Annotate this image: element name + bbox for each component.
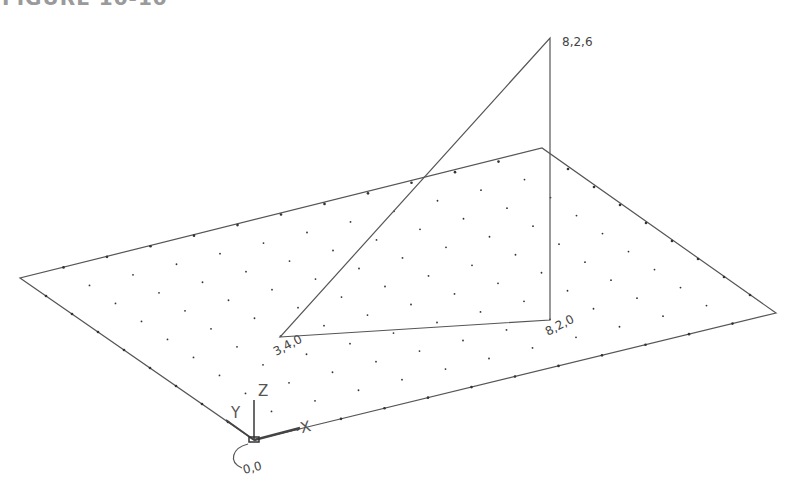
- grid-dot: [350, 221, 352, 223]
- grid-dot: [375, 361, 377, 363]
- grid-dot: [680, 287, 682, 289]
- edge-tick: [645, 222, 648, 225]
- grid-dot: [254, 317, 256, 319]
- edge-tick: [497, 160, 500, 163]
- grid-dot: [228, 299, 230, 301]
- axis-label-x: X: [298, 417, 312, 437]
- edge-tick: [45, 295, 48, 298]
- grid-dot: [506, 329, 508, 331]
- axis-label-z: Z: [258, 382, 268, 400]
- axis-label-y: Y: [230, 404, 241, 422]
- grid-dot: [706, 305, 708, 307]
- grid-dot: [115, 303, 117, 305]
- grid-dot: [306, 232, 308, 234]
- edge-tick: [149, 245, 152, 248]
- plane-edge-ticks: [45, 160, 752, 430]
- grid-dot: [341, 296, 343, 298]
- edge-tick: [149, 367, 152, 370]
- grid-dot: [289, 260, 291, 262]
- grid-dot: [662, 315, 664, 317]
- grid-dot: [141, 321, 143, 323]
- edge-tick: [601, 354, 604, 357]
- grid-dot: [210, 328, 212, 330]
- grid-dot: [419, 228, 421, 230]
- grid-dot: [523, 300, 525, 302]
- grid-dot: [436, 322, 438, 324]
- grid-dot: [532, 347, 534, 349]
- edge-tick: [749, 294, 752, 297]
- grid-dot: [184, 310, 186, 312]
- grid-dot: [575, 336, 577, 338]
- grid-dot: [428, 275, 430, 277]
- edge-tick: [280, 213, 283, 216]
- grid-dot: [576, 215, 578, 217]
- edge-tick: [236, 224, 239, 227]
- xy-plane: [20, 148, 776, 440]
- grid-dot: [619, 326, 621, 328]
- grid-dot: [219, 375, 221, 377]
- grid-dot: [593, 308, 595, 310]
- grid-dot: [489, 236, 491, 238]
- edge-tick: [427, 396, 430, 399]
- edge-tick: [697, 258, 700, 261]
- edge-tick: [383, 407, 386, 410]
- edge-tick: [340, 418, 343, 421]
- edge-tick: [619, 204, 622, 207]
- grid-dot: [463, 218, 465, 220]
- vertex-label-8-2-6: 8,2,6: [562, 35, 593, 49]
- edge-tick: [175, 385, 178, 388]
- grid-dot: [488, 358, 490, 360]
- grid-dot: [314, 400, 316, 402]
- edge-tick: [410, 181, 413, 184]
- grid-dot: [567, 290, 569, 292]
- grid-dot: [236, 346, 238, 348]
- edge-tick: [593, 186, 596, 189]
- grid-dot: [89, 285, 91, 287]
- grid-dot: [271, 411, 273, 413]
- edge-tick: [123, 349, 126, 352]
- grid-dot: [323, 325, 325, 327]
- grid-dot: [506, 207, 508, 209]
- edge-tick: [644, 343, 647, 346]
- grid-dot: [497, 282, 499, 284]
- grid-dot: [480, 311, 482, 313]
- grid-dot: [480, 189, 482, 191]
- grid-dot: [167, 339, 169, 341]
- edge-tick: [97, 331, 100, 334]
- grid-dot: [437, 200, 439, 202]
- grid-dot: [454, 293, 456, 295]
- edge-tick: [62, 266, 65, 269]
- grid-dot: [410, 304, 412, 306]
- edge-tick: [201, 403, 204, 406]
- isometric-drawing: 3,4,0 8,2,0 8,2,6 Z Y X 0,0: [0, 0, 789, 487]
- grid-dot: [558, 243, 560, 245]
- grid-dot: [332, 250, 334, 252]
- x-axis-line: [254, 428, 300, 440]
- grid-dot: [193, 357, 195, 359]
- grid-dot: [401, 379, 403, 381]
- grid-dot: [445, 368, 447, 370]
- grid-dot: [654, 269, 656, 271]
- grid-dot: [358, 389, 360, 391]
- grid-dot: [245, 271, 247, 273]
- grid-dot: [515, 254, 517, 256]
- grid-dot: [349, 343, 351, 345]
- grid-dot: [393, 332, 395, 334]
- grid-dot: [219, 253, 221, 255]
- grid-dot: [376, 239, 378, 241]
- edge-tick: [723, 276, 726, 279]
- vertex-label-8-2-0: 8,2,0: [543, 312, 577, 339]
- grid-dot: [176, 263, 178, 265]
- grid-dot: [419, 350, 421, 352]
- edge-tick: [557, 365, 560, 368]
- grid-dot: [358, 268, 360, 270]
- edge-tick: [367, 192, 370, 195]
- edge-tick: [731, 322, 734, 325]
- edge-tick: [688, 333, 691, 336]
- grid-dot: [462, 340, 464, 342]
- grid-dot: [263, 242, 265, 244]
- grid-dot: [306, 353, 308, 355]
- grid-dot: [524, 179, 526, 181]
- origin-label: 0,0: [241, 459, 263, 477]
- grid-dot: [158, 292, 160, 294]
